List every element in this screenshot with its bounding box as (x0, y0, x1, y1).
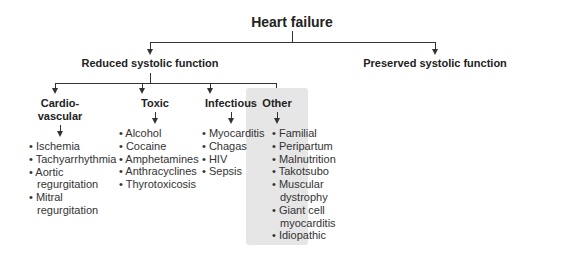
node-preserved-systolic-function: Preserved systolic function (363, 57, 507, 69)
cardiovascular-list: Ischemia Tachyarrhythmia Aortic regurgit… (29, 140, 109, 217)
list-item: Familial (272, 127, 336, 140)
title-line: vascular (38, 110, 83, 123)
arrow-down-icon (228, 118, 234, 124)
arrow-down-icon (57, 131, 63, 137)
list-item: Thyrotoxicosis (119, 178, 199, 191)
other-list: Familial Peripartum Malnutrition Takotsu… (272, 127, 336, 242)
arrow-down-icon (207, 88, 213, 94)
connector (150, 42, 151, 49)
list-item: Malnutrition (272, 153, 336, 166)
list-item: Anthracyclines (119, 165, 199, 178)
category-other-title: Other (262, 97, 291, 109)
connector (435, 42, 436, 49)
list-item: Sepsis (202, 165, 265, 178)
list-item: Mitral regurgitation (29, 191, 99, 217)
category-infectious-title: Infectious (205, 97, 257, 109)
connector (55, 83, 277, 84)
node-reduced-systolic-function: Reduced systolic function (82, 57, 219, 69)
heart-failure-diagram: Heart failure Reduced systolic function … (0, 0, 574, 256)
arrow-down-icon (139, 88, 145, 94)
list-item: Alcohol (119, 127, 199, 140)
list-item: Idiopathic (272, 229, 336, 242)
connector (150, 42, 436, 43)
category-cardiovascular-title: Cardio- vascular (38, 97, 83, 123)
list-item: Chagas (202, 140, 265, 153)
list-item: Amphetamines (119, 153, 199, 166)
arrow-down-icon (52, 88, 58, 94)
list-item: Tachyarrhythmia (29, 153, 109, 166)
list-item: Muscular dystrophy (272, 178, 332, 204)
list-item: Giant cell myocarditis (272, 204, 336, 230)
list-item: Peripartum (272, 140, 336, 153)
arrow-down-icon (274, 118, 280, 124)
list-item: HIV (202, 153, 265, 166)
arrow-down-icon (432, 49, 438, 55)
connector (150, 73, 151, 83)
root-node-heart-failure: Heart failure (251, 14, 333, 30)
list-item: Takotsubo (272, 165, 336, 178)
list-item: Cocaine (119, 140, 199, 153)
list-item: Myocarditis (202, 127, 265, 140)
arrow-down-icon (147, 49, 153, 55)
infectious-list: Myocarditis Chagas HIV Sepsis (202, 127, 265, 178)
arrow-down-icon (152, 118, 158, 124)
connector (292, 31, 293, 42)
toxic-list: Alcohol Cocaine Amphetamines Anthracycli… (119, 127, 199, 191)
category-toxic-title: Toxic (141, 97, 169, 109)
list-item: Aortic regurgitation (29, 166, 99, 192)
title-line: Cardio- (38, 97, 83, 110)
list-item: Ischemia (29, 140, 109, 153)
